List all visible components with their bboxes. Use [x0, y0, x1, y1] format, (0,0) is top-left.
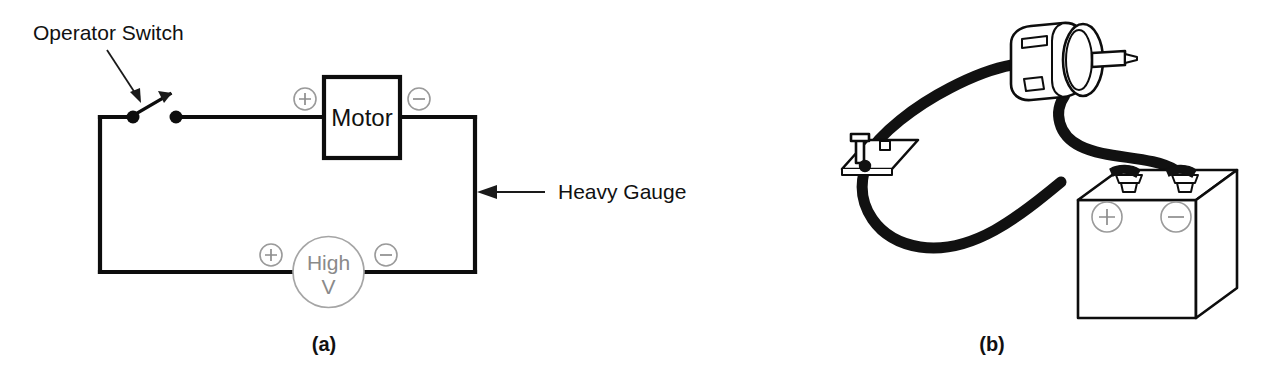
switch-hinge-post — [880, 141, 890, 150]
figure-root: Operator Switch Motor Hig — [0, 0, 1261, 377]
motor-minus-terminal — [408, 88, 430, 110]
knife-switch-object[interactable] — [842, 134, 918, 175]
motor-terminal-tab — [1024, 77, 1044, 91]
high-voltage-source: High V — [293, 237, 364, 308]
post-cap — [1172, 175, 1198, 183]
figure-canvas: Operator Switch Motor Hig — [0, 0, 1261, 377]
motor-body-seam — [1052, 23, 1063, 97]
switch-lever-blade — [856, 140, 864, 163]
panel-b-caption: (b) — [979, 333, 1005, 355]
motor-block: Motor — [324, 77, 400, 158]
plus-glyph — [265, 249, 277, 261]
switch-contact-left — [127, 111, 140, 124]
operator-switch-leader-arrow — [130, 88, 141, 103]
switch-lever-knob — [851, 134, 869, 141]
panel-a-schematic: Operator Switch Motor Hig — [33, 21, 686, 355]
heavy-gauge-leader-arrow — [477, 185, 497, 199]
motor-shaft-tip — [1125, 54, 1137, 63]
heavy-gauge-label: Heavy Gauge — [558, 180, 686, 203]
operator-switch-label: Operator Switch — [33, 21, 184, 44]
operator-switch-leader-line — [107, 50, 137, 96]
motor-plus-terminal — [294, 88, 316, 110]
motor-label: Motor — [331, 104, 392, 131]
cable-motor-to-battery — [1059, 95, 1175, 170]
cable-switch-to-battery — [862, 172, 1061, 248]
motor-shaft — [1092, 51, 1125, 67]
switch-terminal-node — [860, 161, 871, 172]
post-cap — [1116, 175, 1142, 183]
motor-vent-slot-top — [1022, 36, 1047, 48]
post-base — [1121, 183, 1137, 192]
panel-a-caption: (a) — [312, 333, 336, 355]
operator-switch-callout: Operator Switch — [33, 21, 184, 103]
circuit-wires — [100, 117, 475, 272]
motor-end-bell-rim — [1066, 30, 1092, 90]
panel-b-pictorial: (b) — [842, 23, 1237, 355]
source-label-line2: V — [321, 275, 335, 298]
heavy-gauge-callout: Heavy Gauge — [477, 180, 686, 203]
post-base — [1177, 183, 1193, 192]
plus-glyph — [299, 93, 311, 105]
switch-contact-right — [170, 111, 183, 124]
source-plus-terminal — [260, 244, 282, 266]
dc-motor-object — [1011, 23, 1137, 100]
battery-object — [1078, 170, 1237, 318]
source-minus-terminal — [375, 244, 397, 266]
source-label-line1: High — [307, 251, 350, 274]
